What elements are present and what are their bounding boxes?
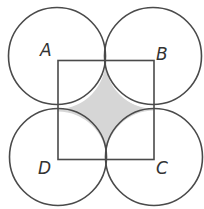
label-d: D: [38, 158, 51, 178]
circle-a: [9, 8, 106, 105]
label-a: A: [39, 40, 52, 60]
label-c: C: [156, 158, 168, 178]
circle-b: [105, 8, 202, 105]
geometry-figure: A B C D: [0, 0, 204, 209]
label-b: B: [156, 44, 168, 64]
